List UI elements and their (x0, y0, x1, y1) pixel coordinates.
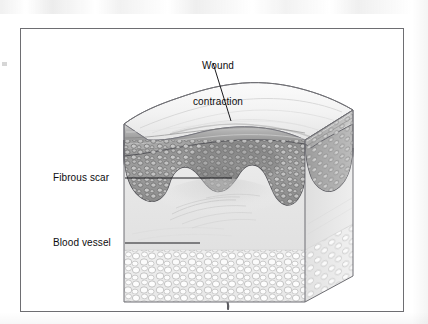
label-wound-contraction-line1: Wound (178, 60, 258, 72)
page-canvas: Wound contraction Fibrous scar Blood ves… (0, 0, 428, 324)
scan-artifact-right-edge (412, 0, 428, 324)
label-wound-contraction: Wound contraction (178, 36, 258, 132)
label-wound-contraction-line2: contraction (178, 96, 258, 108)
label-fibrous-scar: Fibrous scar (53, 172, 109, 184)
scan-artifact-bottom-edge (0, 312, 428, 324)
scan-artifact-left-mark (2, 62, 7, 66)
label-blood-vessel: Blood vessel (53, 237, 111, 249)
scan-artifact-top (0, 0, 428, 14)
